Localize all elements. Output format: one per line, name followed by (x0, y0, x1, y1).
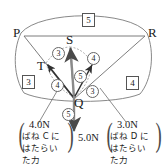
force-caption-left-line2: はたらい (22, 143, 58, 154)
point-label-P: P (13, 26, 20, 39)
force-caption-left-line3: た力 (22, 155, 40, 166)
force-caption-right-line2: はたらい (110, 143, 146, 154)
vector-Q-to-S (71, 48, 75, 98)
leader-right (100, 88, 126, 122)
force-caption-left-line1: ばね C に (22, 131, 60, 142)
force-caption-right-line1: ばね D に (110, 131, 149, 142)
right-arc (140, 33, 151, 94)
right-brace-close: ) (156, 116, 162, 154)
circle-number-center: 5 (74, 70, 87, 83)
circle-number-lower-right: 3 (86, 85, 99, 98)
point-label-T: T (37, 59, 45, 72)
force-vector-diagram: P R S T Q 5 3 4 3 4 5 4 3 5 4.0N ( ) ばね … (0, 0, 168, 168)
circle-number-lower-left: 4 (51, 79, 64, 92)
box-number-right: 4 (126, 76, 139, 90)
box-number-top: 5 (82, 13, 95, 27)
force-caption-right-line3: た力 (110, 155, 128, 166)
box-number-left: 3 (22, 75, 35, 89)
circle-number-upper-left: 3 (52, 47, 65, 60)
point-label-R: R (148, 26, 157, 39)
force-magnitude-left: 4.0N (29, 120, 50, 131)
force-magnitude-right: 3.0N (117, 120, 138, 131)
point-label-S: S (66, 33, 73, 46)
force-magnitude-bottom: 5.0N (78, 133, 99, 144)
point-label-Q: Q (74, 96, 83, 109)
left-brace-close: ) (68, 116, 74, 154)
circle-number-upper-right: 4 (87, 52, 100, 65)
